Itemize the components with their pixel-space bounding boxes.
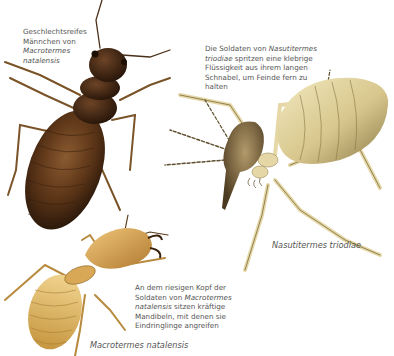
label-macrotermes-natalensis: Macrotermes natalensis <box>90 340 188 350</box>
caption-line: Geschlechtsreifes <box>23 27 87 37</box>
caption-nasutitermes: Die Soldaten von Nasutitermes triodiae s… <box>205 44 317 92</box>
caption-species: natalensis <box>135 302 172 311</box>
caption-text: sitzen kräftige <box>172 302 226 311</box>
caption-species: triodiae <box>205 54 233 63</box>
caption-species: Macrotermes <box>185 293 232 302</box>
label-nasutitermes-triodiae: Nasutitermes triodiae <box>272 240 361 250</box>
caption-line: halten <box>205 82 317 92</box>
caption-line: Mandibeln, mit denen sie <box>135 312 232 322</box>
caption-male: Geschlechtsreifes Männchen von Macroterm… <box>23 27 87 65</box>
caption-text: Die Soldaten von <box>205 44 269 53</box>
caption-text: spritzen eine klebrige <box>233 54 313 63</box>
caption-macrotermes-soldier: An dem riesigen Kopf der Soldaten von Ma… <box>135 283 232 331</box>
caption-line-italic: Macrotermes <box>23 46 87 56</box>
caption-line: Eindringlinge angreifen <box>135 321 232 331</box>
caption-text: Soldaten von <box>135 293 185 302</box>
caption-line: Schnabel, um Feinde fern zu <box>205 73 317 83</box>
caption-line-italic: natalensis <box>23 56 87 66</box>
caption-line: Flüssigkeit aus ihrem langen <box>205 63 317 73</box>
caption-line: Männchen von <box>23 37 87 47</box>
nasute-head <box>222 121 264 210</box>
caption-species: Nasutitermes <box>269 44 317 53</box>
caption-line: An dem riesigen Kopf der <box>135 283 232 293</box>
